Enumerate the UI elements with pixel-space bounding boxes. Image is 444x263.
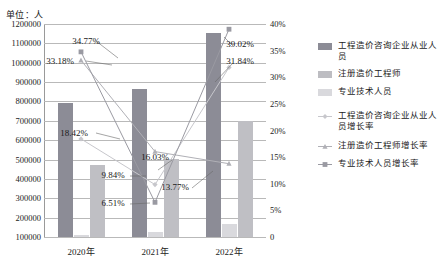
gridline <box>44 198 266 199</box>
y-axis-left-tick-label: 300000 <box>16 193 42 203</box>
bar <box>206 33 221 237</box>
y-axis-left-tick-label: 1000000 <box>11 58 41 68</box>
legend-item[interactable]: 工程造价咨询企业从业人员增长率 <box>318 110 442 131</box>
x-axis-tick-label: 2020年 <box>68 245 95 258</box>
x-axis-tick-label: 2022年 <box>216 245 243 258</box>
data-label: 33.18% <box>46 56 74 66</box>
y-axis-left-tick-label: 800000 <box>16 96 42 106</box>
data-label: 9.84% <box>101 170 124 180</box>
y-axis-left-tick-label: 700000 <box>16 116 42 126</box>
bar-swatch-dark <box>318 43 332 50</box>
x-axis-tick-label: 2021年 <box>142 245 169 258</box>
bar <box>222 224 237 237</box>
gridline <box>44 121 266 122</box>
y-axis-left-tick-label: 100000 <box>16 232 42 242</box>
y-axis-left-tick-label: 1100000 <box>12 38 41 48</box>
y-axis-left-tick-label: 400000 <box>16 174 42 184</box>
gridline <box>44 237 266 238</box>
y-axis-left-ticks: 1200000110000010000009000008000007000006… <box>0 24 41 237</box>
line-square-icon <box>318 160 332 169</box>
legend-item[interactable]: 专业技术人员 <box>318 86 442 97</box>
legend-item-label: 工程造价咨询企业从业人员 <box>338 40 442 61</box>
y-axis-right-ticks: 40%35%30%25%20%15%10%5%0 <box>270 24 310 237</box>
y-axis-left-tick-label: 500000 <box>16 155 42 165</box>
legend-item-label: 专业技术人员 <box>338 86 392 97</box>
data-label: 16.03% <box>141 152 169 162</box>
data-label: 39.02% <box>226 39 254 49</box>
data-label: 6.51% <box>101 198 124 208</box>
gridline <box>44 140 266 141</box>
gridline <box>44 82 266 83</box>
y-axis-left-tick-label: 900000 <box>16 77 42 87</box>
legend-item[interactable]: 专业技术人员增长率 <box>318 158 442 169</box>
legend-item[interactable]: 工程造价咨询企业从业人员 <box>318 40 442 61</box>
y-axis-right-tick-label: 10% <box>270 179 286 189</box>
y-axis-right-tick-label: 5% <box>270 205 281 215</box>
data-label: 31.84% <box>226 56 254 66</box>
line-diamond-icon <box>318 112 332 121</box>
legend-item-label: 工程造价咨询企业从业人员增长率 <box>338 110 442 131</box>
bar <box>132 89 147 237</box>
y-axis-left-tick-label: 200000 <box>16 213 42 223</box>
line-triangle-icon <box>318 142 332 151</box>
y-axis-right-tick-label: 0 <box>270 232 274 242</box>
legend-item[interactable]: 注册造价工程师 <box>318 68 442 79</box>
y-axis-right-tick-label: 25% <box>270 99 286 109</box>
bar <box>238 121 253 237</box>
data-label: 34.77% <box>72 36 100 46</box>
chart-container: 单位：人 12000001100000100000090000080000070… <box>0 0 444 263</box>
gridline <box>44 218 266 219</box>
data-label: 18.42% <box>60 128 88 138</box>
legend-item-label: 专业技术人员增长率 <box>338 158 419 169</box>
bar <box>58 103 73 237</box>
gridline <box>44 101 266 102</box>
y-axis-right-tick-label: 30% <box>270 72 286 82</box>
legend-item-label: 注册造价工程师增长率 <box>338 140 428 151</box>
y-axis-left-tick-label: 1200000 <box>11 19 41 29</box>
bar <box>74 235 89 237</box>
y-axis-right-tick-label: 15% <box>270 152 286 162</box>
data-label: 13.77% <box>161 182 189 192</box>
y-axis-right-tick-label: 40% <box>270 19 286 29</box>
bar-swatch-light <box>318 89 332 96</box>
legend-item-label: 注册造价工程师 <box>338 68 401 79</box>
bar <box>164 159 179 237</box>
legend-item[interactable]: 注册造价工程师增长率 <box>318 140 442 151</box>
y-axis-right-tick-label: 35% <box>270 46 286 56</box>
gridline <box>44 24 266 25</box>
bar-swatch-mid <box>318 71 332 78</box>
gridline <box>44 179 266 180</box>
y-axis-right-tick-label: 20% <box>270 126 286 136</box>
chart-legend: 工程造价咨询企业从业人员注册造价工程师专业技术人员工程造价咨询企业从业人员增长率… <box>318 40 442 176</box>
bar <box>148 232 163 237</box>
y-axis-left-tick-label: 600000 <box>16 135 42 145</box>
